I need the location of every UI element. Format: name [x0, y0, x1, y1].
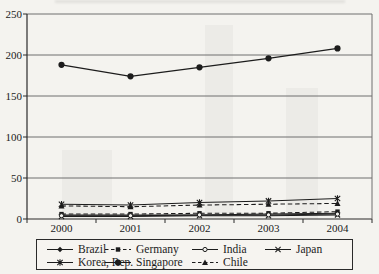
legend-swatch-korea-rep — [47, 257, 73, 268]
legend-item-india: India — [192, 243, 247, 255]
legend-label-japan: Japan — [296, 243, 322, 255]
marker-circle — [334, 45, 340, 51]
marker-circle — [127, 73, 133, 79]
x-tick-label-2001: 2001 — [113, 222, 149, 234]
legend-swatch-brazil — [47, 244, 73, 255]
legend-item-japan: Japan — [265, 243, 322, 255]
marker-circle — [115, 259, 121, 265]
marker-circle-open — [59, 214, 63, 218]
legend-swatch-india — [192, 244, 218, 255]
chart-legend: BrazilGermanyIndiaJapanKorea, Rep.Singap… — [36, 239, 353, 270]
legend-label-germany: Germany — [136, 243, 179, 255]
marker-circle — [196, 64, 202, 70]
legend-label-india: India — [223, 243, 247, 255]
marker-square — [116, 247, 120, 251]
y-tick-label-50: 50 — [0, 172, 22, 184]
legend-item-singapore: Singapore — [105, 256, 183, 268]
legend-swatch-singapore — [105, 257, 131, 268]
series-singapore — [58, 45, 340, 79]
x-tick-label-2002: 2002 — [182, 222, 218, 234]
legend-swatch-japan — [265, 244, 291, 255]
marker-diamond — [57, 246, 63, 252]
chart-figure: 050100150200250 20002001200220032004 Bra… — [0, 0, 379, 274]
marker-circle — [58, 62, 64, 68]
legend-label-brazil: Brazil — [78, 243, 106, 255]
marker-circle-open — [335, 212, 339, 216]
x-tick-label-2004: 2004 — [320, 222, 356, 234]
legend-item-chile: Chile — [192, 256, 248, 268]
x-tick-label-2000: 2000 — [44, 222, 80, 234]
legend-swatch-chile — [192, 257, 218, 268]
y-tick-label-150: 150 — [0, 90, 22, 102]
legend-item-germany: Germany — [105, 243, 179, 255]
marker-circle-open — [128, 214, 132, 218]
marker-circle-open — [266, 213, 270, 217]
y-tick-label-200: 200 — [0, 49, 22, 61]
marker-circle-open — [197, 213, 201, 217]
y-tick-label-100: 100 — [0, 131, 22, 143]
legend-swatch-germany — [105, 244, 131, 255]
x-tick-label-2003: 2003 — [251, 222, 287, 234]
legend-label-chile: Chile — [223, 256, 248, 268]
y-tick-label-0: 0 — [0, 213, 22, 225]
y-tick-label-250: 250 — [0, 8, 22, 20]
legend-label-singapore: Singapore — [136, 256, 183, 268]
legend-item-brazil: Brazil — [47, 243, 106, 255]
marker-circle-open — [203, 247, 207, 251]
marker-circle — [265, 55, 271, 61]
